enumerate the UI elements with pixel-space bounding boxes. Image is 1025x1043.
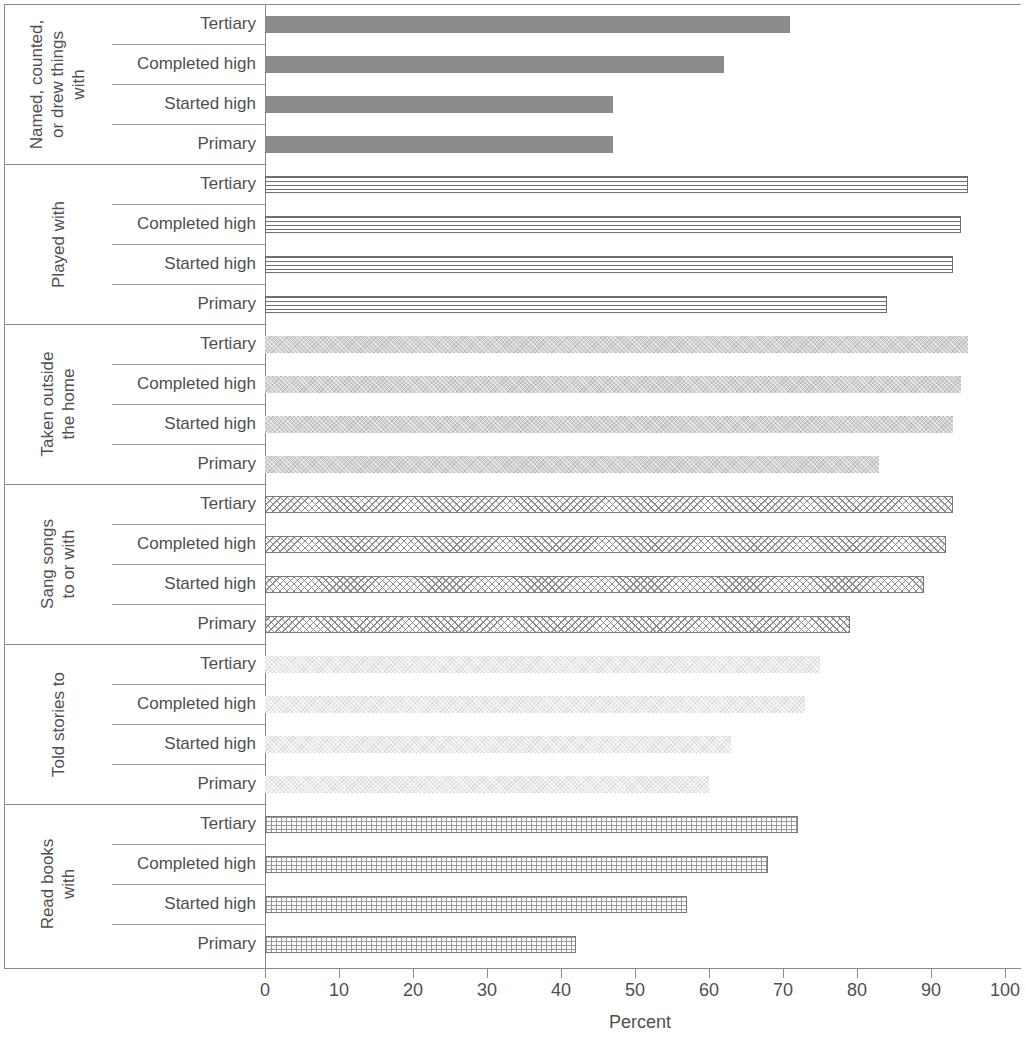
row-separator bbox=[112, 44, 265, 45]
bar bbox=[265, 376, 961, 393]
x-axis-baseline bbox=[4, 968, 1021, 969]
row-label-started-high: Started high bbox=[56, 734, 256, 754]
row-label-primary: Primary bbox=[56, 774, 256, 794]
x-axis-tick bbox=[487, 969, 488, 978]
bar bbox=[265, 576, 924, 593]
row-separator bbox=[112, 444, 265, 445]
row-separator bbox=[112, 884, 265, 885]
grouped-horizontal-bar-chart: Named, counted, or drew things withPlaye… bbox=[0, 0, 1025, 1043]
row-label-primary: Primary bbox=[56, 294, 256, 314]
row-label-tertiary: Tertiary bbox=[56, 14, 256, 34]
x-axis-tick bbox=[857, 969, 858, 978]
bar bbox=[265, 136, 613, 153]
x-axis-tick-label: 30 bbox=[457, 980, 517, 1001]
group-label-text: Sang songs to or with bbox=[37, 519, 79, 609]
bar bbox=[265, 656, 820, 673]
bar bbox=[265, 856, 768, 873]
bar bbox=[265, 696, 805, 713]
group-label-text: Read books with bbox=[37, 839, 79, 930]
row-separator bbox=[112, 764, 265, 765]
row-label-started-high: Started high bbox=[56, 894, 256, 914]
row-separator bbox=[112, 564, 265, 565]
x-axis-tick bbox=[561, 969, 562, 978]
x-axis-tick-label: 90 bbox=[901, 980, 961, 1001]
row-label-primary: Primary bbox=[56, 134, 256, 154]
row-label-tertiary: Tertiary bbox=[56, 174, 256, 194]
x-axis-tick bbox=[931, 969, 932, 978]
x-axis-tick bbox=[265, 969, 266, 978]
x-axis-tick-label: 80 bbox=[827, 980, 887, 1001]
plot-area bbox=[265, 4, 1021, 968]
row-label-primary: Primary bbox=[56, 934, 256, 954]
group-label-text: Taken outside the home bbox=[37, 352, 79, 457]
row-separator bbox=[112, 204, 265, 205]
row-label-completed-high: Completed high bbox=[56, 54, 256, 74]
group-separator bbox=[4, 644, 265, 645]
row-label-tertiary: Tertiary bbox=[56, 814, 256, 834]
row-separator bbox=[112, 84, 265, 85]
group-label-text: Told stories to bbox=[48, 672, 69, 777]
row-label-tertiary: Tertiary bbox=[56, 334, 256, 354]
bar bbox=[265, 736, 731, 753]
x-axis-tick bbox=[635, 969, 636, 978]
x-axis-tick-label: 0 bbox=[235, 980, 295, 1001]
bar bbox=[265, 296, 887, 313]
x-axis-tick bbox=[709, 969, 710, 978]
x-axis-tick-label: 60 bbox=[679, 980, 739, 1001]
x-axis-tick-label: 100 bbox=[975, 980, 1025, 1001]
row-separator bbox=[112, 844, 265, 845]
row-label-completed-high: Completed high bbox=[56, 534, 256, 554]
row-label-started-high: Started high bbox=[56, 94, 256, 114]
row-separator bbox=[112, 404, 265, 405]
row-separator bbox=[112, 524, 265, 525]
x-axis-tick bbox=[339, 969, 340, 978]
row-separator bbox=[112, 724, 265, 725]
bar bbox=[265, 336, 968, 353]
bar bbox=[265, 896, 687, 913]
bar bbox=[265, 536, 946, 553]
bar bbox=[265, 816, 798, 833]
row-separator bbox=[112, 924, 265, 925]
bar bbox=[265, 936, 576, 953]
row-label-completed-high: Completed high bbox=[56, 694, 256, 714]
row-label-started-high: Started high bbox=[56, 574, 256, 594]
x-axis-tick bbox=[1005, 969, 1006, 978]
bar bbox=[265, 256, 953, 273]
row-label-completed-high: Completed high bbox=[56, 854, 256, 874]
row-label-primary: Primary bbox=[56, 614, 256, 634]
row-label-tertiary: Tertiary bbox=[56, 654, 256, 674]
bar bbox=[265, 216, 961, 233]
x-axis-tick-label: 70 bbox=[753, 980, 813, 1001]
row-label-completed-high: Completed high bbox=[56, 374, 256, 394]
row-label-primary: Primary bbox=[56, 454, 256, 474]
row-separator bbox=[112, 604, 265, 605]
bar bbox=[265, 776, 709, 793]
x-axis-tick-label: 20 bbox=[383, 980, 443, 1001]
row-separator bbox=[112, 284, 265, 285]
row-label-started-high: Started high bbox=[56, 254, 256, 274]
x-axis-tick-label: 10 bbox=[309, 980, 369, 1001]
row-separator bbox=[112, 684, 265, 685]
group-separator bbox=[4, 164, 265, 165]
bar bbox=[265, 616, 850, 633]
bar bbox=[265, 416, 953, 433]
x-axis-tick bbox=[413, 969, 414, 978]
bar bbox=[265, 456, 879, 473]
x-axis-title: Percent bbox=[370, 1012, 910, 1033]
bar bbox=[265, 16, 790, 33]
group-separator bbox=[4, 804, 265, 805]
x-axis-tick-label: 50 bbox=[605, 980, 665, 1001]
bar bbox=[265, 176, 968, 193]
row-label-completed-high: Completed high bbox=[56, 214, 256, 234]
group-label-text: Named, counted, or drew things with bbox=[27, 19, 90, 148]
row-label-tertiary: Tertiary bbox=[56, 494, 256, 514]
x-axis-tick-label: 40 bbox=[531, 980, 591, 1001]
bar bbox=[265, 56, 724, 73]
group-separator bbox=[4, 484, 265, 485]
row-separator bbox=[112, 124, 265, 125]
chart-frame-left-border bbox=[4, 4, 5, 968]
row-separator bbox=[112, 364, 265, 365]
bar bbox=[265, 496, 953, 513]
bar bbox=[265, 96, 613, 113]
group-separator bbox=[4, 324, 265, 325]
